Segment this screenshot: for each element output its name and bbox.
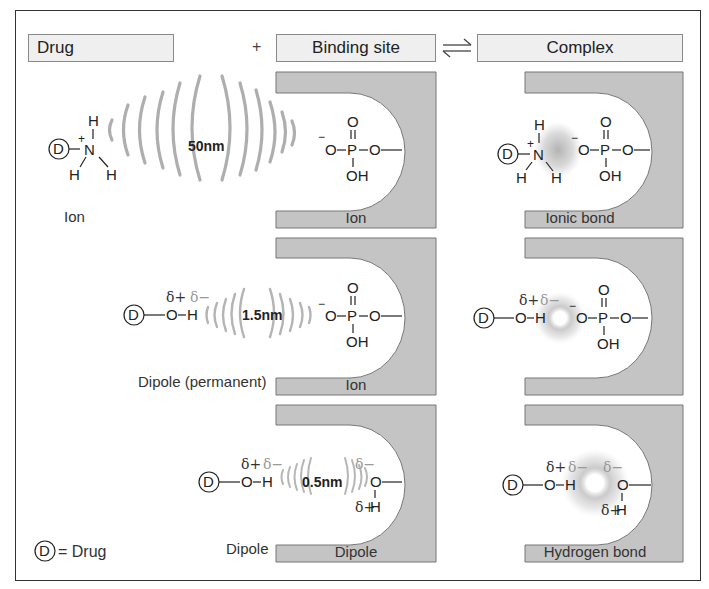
svg-text:O: O — [325, 307, 337, 324]
phosphate-group-row2: − O P O O OH — [318, 279, 402, 350]
site-type-label-row1: Ion — [276, 209, 436, 226]
distance-label-row1: 50nm — [188, 138, 225, 154]
svg-text:δ−: δ− — [603, 459, 623, 475]
svg-text:P: P — [347, 307, 357, 324]
svg-text:δ−: δ− — [355, 456, 375, 472]
svg-text:O: O — [617, 476, 629, 493]
legend-text: = Drug — [58, 543, 106, 561]
svg-text:O: O — [600, 113, 612, 130]
complex-type-label-row3: Hydrogen bond — [525, 543, 665, 560]
svg-text:H: H — [551, 169, 562, 186]
svg-text:H: H — [616, 501, 627, 518]
svg-text:H: H — [106, 166, 117, 183]
svg-text:H: H — [88, 112, 99, 129]
hydroxyl-group-site-row3: δ− O δ+ H — [355, 456, 402, 515]
svg-text:O: O — [325, 141, 337, 158]
svg-text:δ+: δ+ — [546, 459, 566, 475]
svg-text:D: D — [502, 145, 513, 162]
svg-text:D: D — [203, 473, 214, 490]
svg-text:P: P — [600, 141, 610, 158]
drug-type-label-row3: Dipole — [226, 540, 269, 557]
svg-text:OH: OH — [346, 167, 369, 184]
svg-text:H: H — [535, 309, 546, 326]
site-type-label-row3: Dipole — [276, 543, 436, 560]
svg-text:H: H — [262, 473, 273, 490]
svg-text:P: P — [598, 309, 608, 326]
distance-label-row2: 1.5nm — [242, 307, 282, 323]
svg-text:H: H — [565, 476, 576, 493]
svg-text:D: D — [507, 476, 518, 493]
svg-text:O: O — [620, 309, 632, 326]
svg-text:O: O — [515, 309, 527, 326]
site-type-label-row2: Ion — [276, 376, 436, 393]
svg-text:O: O — [241, 473, 253, 490]
svg-text:H: H — [370, 498, 381, 515]
distance-label-row3: 0.5nm — [302, 474, 342, 490]
svg-text:D: D — [128, 306, 139, 323]
binding-site-block-row3 — [276, 405, 436, 562]
svg-text:O: O — [369, 307, 381, 324]
svg-text:N: N — [533, 146, 544, 163]
svg-text:O: O — [622, 141, 634, 158]
svg-text:H: H — [534, 116, 545, 133]
svg-text:N: N — [84, 141, 95, 158]
svg-text:O: O — [347, 279, 359, 296]
svg-text:O: O — [578, 141, 590, 158]
svg-text:δ+: δ+ — [241, 456, 261, 472]
svg-text:H: H — [69, 166, 80, 183]
drug-ammonium-group-row1: D + N H H H — [49, 112, 117, 183]
svg-text:δ−: δ− — [190, 289, 210, 305]
svg-text:−: − — [571, 131, 578, 145]
svg-text:−: − — [318, 130, 325, 144]
drug-hydroxyl-group-row2: D O H δ+ δ− — [124, 289, 210, 325]
svg-text:−: − — [318, 297, 325, 311]
svg-text:OH: OH — [599, 167, 622, 184]
svg-text:O: O — [369, 141, 381, 158]
svg-text:δ−: δ− — [568, 459, 588, 475]
svg-text:H: H — [516, 169, 527, 186]
svg-text:O: O — [544, 476, 556, 493]
wave-arcs-row1 — [110, 76, 295, 180]
phosphate-group-row1: − O P O O OH — [318, 113, 402, 184]
svg-text:δ+: δ+ — [166, 289, 186, 305]
svg-text:δ+: δ+ — [519, 292, 539, 308]
svg-text:O: O — [370, 473, 382, 490]
drug-type-label-row1: Ion — [64, 208, 85, 225]
svg-text:O: O — [347, 113, 359, 130]
svg-text:D: D — [53, 140, 64, 157]
complex-type-label-row1: Ionic bond — [525, 209, 635, 226]
svg-text:OH: OH — [597, 335, 620, 352]
diagram-graphics: D + N H H H − O P O O OH D + N H H H — [0, 0, 709, 589]
svg-text:O: O — [576, 309, 588, 326]
drug-hydroxyl-group-row3: D O H δ+ δ− — [199, 456, 283, 492]
svg-text:−: − — [569, 299, 576, 313]
svg-text:δ−: δ− — [263, 456, 283, 472]
svg-text:OH: OH — [346, 333, 369, 350]
svg-text:D: D — [478, 309, 489, 326]
svg-text:P: P — [347, 141, 357, 158]
svg-text:O: O — [166, 306, 178, 323]
drug-type-label-row2: Dipole (permanent) — [138, 373, 266, 390]
svg-text:D: D — [39, 542, 50, 559]
svg-text:O: O — [598, 281, 610, 298]
svg-text:H: H — [187, 306, 198, 323]
svg-text:δ−: δ− — [540, 292, 560, 308]
equilibrium-arrow-icon — [443, 39, 471, 57]
